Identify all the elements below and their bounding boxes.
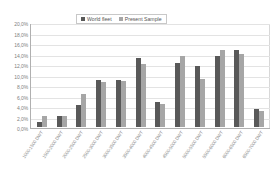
bars-layer	[32, 24, 269, 127]
x-tick: 6500-7000 DWT	[250, 129, 270, 171]
legend-swatch-icon	[119, 17, 123, 21]
bar	[259, 111, 264, 127]
y-tick-label: 16,0%	[14, 42, 28, 48]
y-tick-label: 8,0%	[17, 84, 28, 90]
legend-swatch-icon	[81, 17, 85, 21]
chart-legend: World fleetPresent Sample	[76, 14, 167, 24]
bar	[62, 116, 67, 127]
bar-group	[151, 24, 171, 127]
bar-group	[210, 24, 230, 127]
y-tick-label: 14,0%	[14, 53, 28, 59]
legend-label: Present Sample	[125, 16, 162, 22]
bar-group	[91, 24, 111, 127]
y-tick-label: 10,0%	[14, 74, 28, 80]
bar	[220, 50, 225, 127]
legend-entry[interactable]: World fleet	[81, 16, 112, 22]
plot-area	[30, 24, 270, 129]
bar-group	[72, 24, 92, 127]
y-tick-label: 12,0%	[14, 63, 28, 69]
bar-group	[170, 24, 190, 127]
bar-chart: 0,0%2,0%4,0%6,0%8,0%10,0%12,0%14,0%16,0%…	[0, 0, 276, 171]
plot-right-border	[269, 24, 270, 128]
y-axis: 0,0%2,0%4,0%6,0%8,0%10,0%12,0%14,0%16,0%…	[0, 24, 30, 129]
bar-group	[52, 24, 72, 127]
bar	[141, 64, 146, 127]
bar-group	[230, 24, 250, 127]
bar	[160, 104, 165, 127]
bar	[239, 54, 244, 128]
bar	[121, 81, 126, 127]
y-tick-label: 20,0%	[14, 21, 28, 27]
y-tick-label: 6,0%	[17, 95, 28, 101]
x-tick-label: 1000-1500 DWT	[21, 130, 44, 159]
bar-group	[32, 24, 52, 127]
y-tick-label: 18,0%	[14, 32, 28, 38]
bar	[42, 116, 47, 127]
bar-group	[131, 24, 151, 127]
bar	[200, 79, 205, 127]
bar	[81, 94, 86, 127]
bar-group	[249, 24, 269, 127]
legend-entry[interactable]: Present Sample	[119, 16, 162, 22]
y-tick-label: 4,0%	[17, 105, 28, 111]
bar-group	[190, 24, 210, 127]
bar	[180, 56, 185, 127]
y-tick-label: 0,0%	[17, 126, 28, 132]
bar-group	[111, 24, 131, 127]
y-tick-label: 2,0%	[17, 116, 28, 122]
bar	[101, 82, 106, 127]
x-axis: 1000-1500 DWT1500-2000 DWT2000-2500 DWT2…	[30, 129, 270, 171]
legend-label: World fleet	[87, 16, 112, 22]
